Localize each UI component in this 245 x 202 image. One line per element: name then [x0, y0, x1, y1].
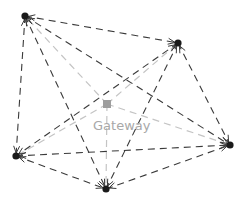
mesh-edge — [25, 16, 178, 43]
gateway-node[interactable] — [103, 100, 111, 108]
mesh-edges — [14, 15, 230, 189]
gateway-edge — [25, 16, 107, 104]
gateway-edges — [16, 16, 230, 189]
node-dot-icon[interactable] — [174, 39, 181, 46]
mesh-edge — [16, 43, 178, 156]
mesh-nodes — [12, 12, 233, 192]
gateway-edge — [107, 43, 178, 104]
node-dot-icon[interactable] — [21, 12, 28, 19]
gateway-edge — [106, 104, 107, 189]
mesh-edge — [16, 16, 25, 156]
node-dot-icon[interactable] — [226, 141, 233, 148]
mesh-edge — [178, 43, 230, 145]
node-dot-icon[interactable] — [12, 152, 19, 159]
arrowhead-icon — [179, 46, 185, 54]
network-diagram — [0, 0, 245, 202]
node-dot-icon[interactable] — [102, 185, 109, 192]
gateway-label: Gateway — [93, 118, 150, 133]
gateway-square-icon[interactable] — [103, 100, 111, 108]
